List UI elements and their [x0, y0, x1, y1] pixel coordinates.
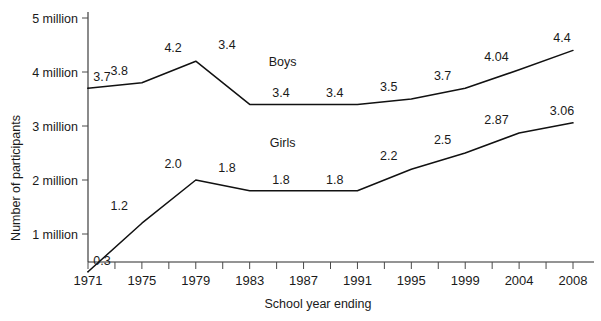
x-tick-label: 1991: [343, 273, 372, 288]
data-point-label: 1.8: [272, 173, 289, 187]
x-tick-label: 2004: [505, 273, 534, 288]
data-point-label: 3.7: [93, 70, 110, 84]
y-tick-label: 1 million: [32, 228, 78, 242]
line-chart: Number of participants School year endin…: [0, 0, 601, 321]
chart-canvas: Number of participants School year endin…: [0, 0, 601, 321]
x-tick-label: 2008: [559, 273, 588, 288]
series-line-girls: [88, 123, 573, 272]
data-point-label: 3.7: [434, 69, 451, 83]
y-tick-label: 2 million: [32, 174, 78, 188]
x-tick-label: 1999: [451, 273, 480, 288]
x-tick-label: 1983: [235, 273, 264, 288]
data-point-label: 3.4: [326, 86, 343, 100]
series-label-girls: Girls: [270, 136, 296, 150]
y-tick-label: 4 million: [32, 66, 78, 80]
data-point-label: 2.2: [380, 149, 397, 163]
data-point-label: 4.04: [484, 50, 508, 64]
y-tick-label: 3 million: [32, 120, 78, 134]
series-label-boys: Boys: [269, 55, 297, 69]
series-lines: [88, 50, 573, 271]
x-tick-label: 1995: [397, 273, 426, 288]
data-point-label: 1.2: [111, 199, 128, 213]
data-point-label: 2.87: [484, 113, 508, 127]
data-point-label: 1.8: [218, 161, 235, 175]
data-point-label: 2.5: [434, 133, 451, 147]
data-point-label: 3.8: [111, 64, 128, 78]
data-point-label: 0.3: [93, 254, 110, 268]
series-name-annotations: BoysGirls: [269, 55, 297, 150]
data-point-label: 4.2: [164, 41, 181, 55]
data-point-label: 2.0: [164, 157, 181, 171]
x-tick-label: 1979: [181, 273, 210, 288]
data-point-label: 1.8: [326, 173, 343, 187]
data-point-label: 3.06: [550, 104, 574, 118]
data-point-label: 3.5: [380, 80, 397, 94]
y-axis-ticks: 1 million2 million3 million4 million5 mi…: [32, 12, 88, 242]
data-point-labels: 3.73.84.23.43.43.43.53.74.044.40.31.22.0…: [93, 31, 574, 267]
x-axis-ticks: 1971197519791983198719911995199920042008: [74, 262, 588, 288]
x-tick-label: 1975: [127, 273, 156, 288]
y-axis-title: Number of participants: [9, 115, 23, 241]
data-point-label: 4.4: [553, 31, 570, 45]
data-point-label: 3.4: [218, 38, 235, 52]
x-axis-title: School year ending: [264, 297, 371, 311]
x-tick-label: 1987: [289, 273, 318, 288]
x-tick-label: 1971: [74, 273, 103, 288]
data-point-label: 3.4: [272, 86, 289, 100]
y-tick-label: 5 million: [32, 12, 78, 26]
